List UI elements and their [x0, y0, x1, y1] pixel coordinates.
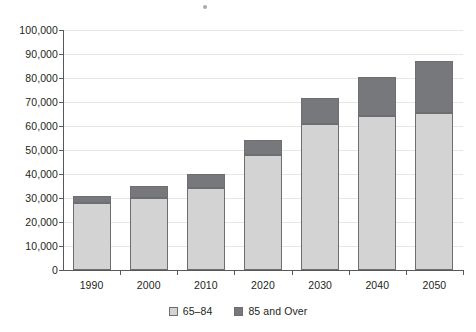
legend-item: 65–84 [169, 306, 213, 317]
bar-segment-85-and-over [73, 196, 111, 203]
y-axis-tick-label: 40,000 [2, 169, 58, 179]
y-axis-tick-label: 80,000 [2, 73, 58, 83]
bar-segment-85-and-over [358, 77, 396, 116]
x-axis-tick-label: 1990 [62, 279, 122, 291]
y-axis-tick-mark [59, 54, 63, 55]
x-axis-tick-mark [406, 271, 407, 275]
bar-stack [358, 30, 396, 270]
bar-segment-85-and-over [244, 140, 282, 155]
legend-item-label: 85 and Over [248, 306, 307, 317]
y-axis-tick-mark [59, 270, 63, 271]
bar-segment-85-and-over [187, 174, 225, 188]
bar-stack [73, 30, 111, 270]
y-axis-tick-label: 0 [2, 265, 58, 275]
y-axis-tick-label: 50,000 [2, 145, 58, 155]
bar-segment-85-and-over [130, 186, 168, 198]
x-axis-tick-mark [120, 271, 121, 275]
y-axis-tick-labels: 010,00020,00030,00040,00050,00060,00070,… [0, 30, 58, 271]
bar-stack [187, 30, 225, 270]
plot-area [63, 30, 463, 270]
bar-segment-65-84 [301, 124, 339, 270]
bar-stack [301, 30, 339, 270]
x-axis-line [63, 270, 464, 271]
x-axis-tick-mark [234, 271, 235, 275]
x-axis-tick-label: 2000 [119, 279, 179, 291]
y-axis-tick-mark [59, 102, 63, 103]
y-axis-tick-label: 90,000 [2, 49, 58, 59]
y-axis-tick-mark [59, 174, 63, 175]
y-axis-tick-mark [59, 30, 63, 31]
x-axis-tick-mark [349, 271, 350, 275]
bar-segment-65-84 [358, 116, 396, 270]
y-axis-tick-label: 70,000 [2, 97, 58, 107]
bar-segment-65-84 [73, 203, 111, 270]
x-axis-tick-label: 2040 [347, 279, 407, 291]
y-axis-tick-mark [59, 78, 63, 79]
x-axis-tick-label: 2050 [404, 279, 464, 291]
x-axis-tick-label: 2020 [233, 279, 293, 291]
y-axis-tick-label: 30,000 [2, 193, 58, 203]
bar-stack [244, 30, 282, 270]
x-axis-tick-mark [292, 271, 293, 275]
y-axis-tick-label: 20,000 [2, 217, 58, 227]
x-axis-tick-label: 2010 [176, 279, 236, 291]
stacked-bar-chart: 010,00020,00030,00040,00050,00060,00070,… [0, 0, 476, 332]
page-artifact-dot [203, 5, 207, 9]
bar-segment-85-and-over [301, 98, 339, 123]
light-gray-swatch [169, 307, 178, 316]
bar-segment-65-84 [187, 188, 225, 270]
bar-segment-85-and-over [415, 61, 453, 113]
y-axis-tick-mark [59, 246, 63, 247]
y-axis-line [63, 30, 64, 271]
x-axis-tick-mark [463, 271, 464, 275]
chart-legend: 65–8485 and Over [0, 306, 476, 317]
dark-gray-swatch [234, 307, 243, 316]
bar-segment-65-84 [130, 198, 168, 270]
y-axis-tick-label: 10,000 [2, 241, 58, 251]
y-axis-tick-mark [59, 198, 63, 199]
y-axis-tick-mark [59, 222, 63, 223]
y-axis-tick-mark [59, 150, 63, 151]
bar-stack [130, 30, 168, 270]
bar-segment-65-84 [415, 113, 453, 270]
y-axis-tick-label: 100,000 [2, 25, 58, 35]
bar-segment-65-84 [244, 155, 282, 270]
legend-item: 85 and Over [234, 306, 307, 317]
bar-stack [415, 30, 453, 270]
x-axis-tick-label: 2030 [290, 279, 350, 291]
x-axis-tick-mark [177, 271, 178, 275]
y-axis-tick-label: 60,000 [2, 121, 58, 131]
legend-item-label: 65–84 [183, 306, 213, 317]
y-axis-tick-mark [59, 126, 63, 127]
